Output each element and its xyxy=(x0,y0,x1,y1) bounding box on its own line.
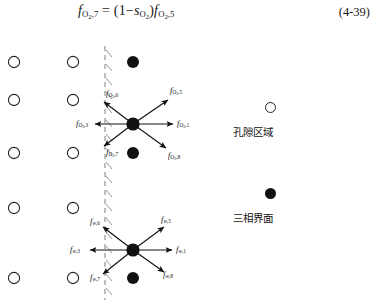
flux-label-f_w_5: fw,5 xyxy=(161,214,171,224)
open-circle xyxy=(8,94,19,105)
equation-number: (4-39) xyxy=(339,5,370,20)
open-circle xyxy=(8,147,19,158)
equation-row: fO2,7 = (1−sO2)fO2,5 (4-39) xyxy=(0,2,378,28)
equation-factor-open: = (1− xyxy=(102,3,134,18)
flux-label-f_O2_5: fO2,5 xyxy=(170,85,182,96)
lower-node-dot xyxy=(126,243,139,256)
filled-circle xyxy=(127,56,139,68)
filled-circle-icon xyxy=(265,188,276,199)
legend-label-three-phase-interface: 三相界面 xyxy=(233,210,273,225)
interface-hatch-ticks xyxy=(106,50,112,295)
diagram-canvas: fO2,6 fO2,5 fO2,3 fO2,1 fO2,7 fO2,8 fw,6… xyxy=(0,28,378,306)
flux-label-f_O2_7: fO2,7 xyxy=(106,147,118,158)
open-circle xyxy=(8,272,19,283)
open-circle-icon xyxy=(265,102,276,113)
open-circle xyxy=(8,56,19,67)
open-circle xyxy=(67,56,78,67)
figure-page: fO2,7 = (1−sO2)fO2,5 (4-39) xyxy=(0,0,378,306)
open-circle xyxy=(67,94,78,105)
flux-label-f_O2_3: fO2,3 xyxy=(76,118,88,129)
open-circle xyxy=(67,202,78,213)
equation-saturation-subscript: O2 xyxy=(140,9,150,19)
flux-label-f_w_3: fw,3 xyxy=(70,244,80,254)
filled-circle xyxy=(127,147,139,159)
filled-circle xyxy=(127,272,139,284)
flux-label-f_w_1: fw,1 xyxy=(176,244,186,254)
flux-label-f_O2_1: fO2,1 xyxy=(177,118,189,129)
open-circle-grid xyxy=(8,56,78,283)
flux-label-f_w_7: fw,7 xyxy=(90,272,100,282)
upper-node-dot xyxy=(126,117,139,130)
flux-label-f_w_8: fw,8 xyxy=(163,269,173,279)
flux-label-f_O2_8: fO2,8 xyxy=(168,150,180,161)
open-circle xyxy=(67,272,78,283)
flux-label-f_w_6: fw,6 xyxy=(90,216,100,226)
equation-lhs-subscript: O2,7 xyxy=(82,9,98,19)
equation-expression: fO2,7 = (1−sO2)fO2,5 xyxy=(78,3,174,20)
open-circle xyxy=(67,147,78,158)
open-circle xyxy=(8,202,19,213)
equation-rhs-subscript: O2,5 xyxy=(158,9,174,19)
flux-label-f_O2_6: fO2,6 xyxy=(106,88,118,99)
diagram-vector-layer xyxy=(0,28,378,306)
legend-label-pore-region: 孔隙区域 xyxy=(233,124,273,139)
